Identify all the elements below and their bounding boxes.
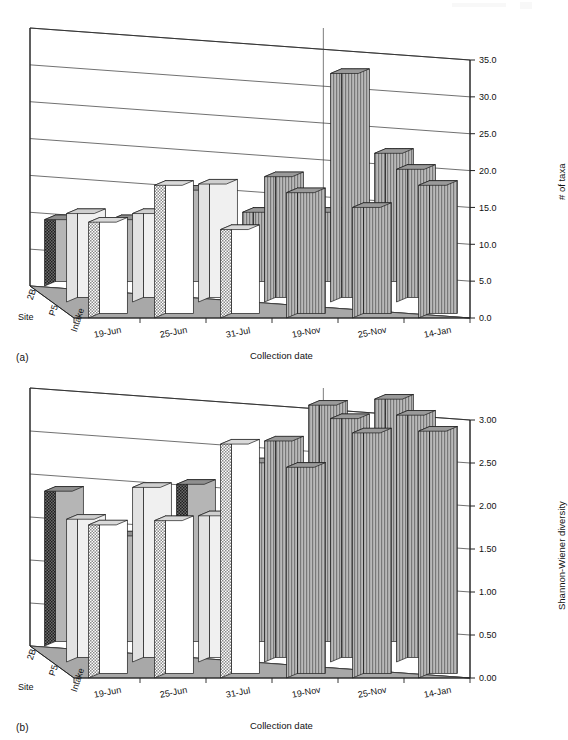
scan-artifact [452,3,506,7]
bar [89,520,128,678]
panel-a-x-axis-title: Collection date [250,350,313,361]
svg-text:1.00: 1.00 [479,587,497,597]
panel-a-site-axis-title: Site [18,312,34,322]
bar [155,516,194,678]
panel-a-y-axis-title: # of taxa [556,164,567,200]
svg-text:0.50: 0.50 [479,630,497,640]
panel-b-label: (b) [16,722,29,733]
chart-panel-a: 0.05.010.015.020.025.030.035.0 (a) # of … [0,0,568,370]
panel-b-y-axis-title: Shannon-Wiener diversity [556,501,567,610]
svg-text:15.0: 15.0 [479,203,497,213]
bar [287,463,326,678]
bar [353,428,392,678]
bar [155,181,194,318]
bar [419,181,458,318]
bar [353,203,392,318]
svg-text:2.00: 2.00 [479,501,497,511]
bar [221,439,260,678]
svg-text:35.0: 35.0 [479,55,497,65]
svg-text:0.00: 0.00 [479,673,497,683]
svg-text:1.50: 1.50 [479,544,497,554]
svg-text:20.0: 20.0 [479,166,497,176]
bar [89,218,128,318]
chart-a-canvas: 0.05.010.015.020.025.030.035.0 [0,0,568,370]
svg-text:0.0: 0.0 [479,313,492,323]
bar [221,225,260,318]
svg-text:5.0: 5.0 [479,276,492,286]
panel-a-label: (a) [16,352,29,363]
bar [287,188,326,318]
svg-text:3.00: 3.00 [479,415,497,425]
svg-text:10.0: 10.0 [479,240,497,250]
svg-text:30.0: 30.0 [479,92,497,102]
chart-panel-b: 0.000.501.001.502.002.503.00 (b) Shannon… [0,370,568,740]
panel-b-site-axis-title: Site [18,682,34,692]
panel-b-x-axis-title: Collection date [250,720,313,731]
scan-artifact [520,2,532,9]
bar [419,427,458,678]
chart-b-canvas: 0.000.501.001.502.002.503.00 [0,370,568,740]
svg-text:2.50: 2.50 [479,458,497,468]
svg-text:25.0: 25.0 [479,129,497,139]
